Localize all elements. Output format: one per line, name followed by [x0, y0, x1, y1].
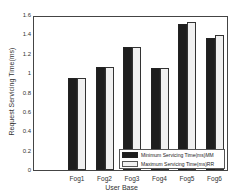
legend-swatch-min — [122, 152, 138, 158]
legend-swatch-max — [122, 161, 138, 167]
y-tick-label: 0.8 — [17, 90, 31, 96]
x-tick-label: Fog1 — [67, 175, 87, 182]
plot-area — [33, 16, 228, 171]
bar-fog2-max — [105, 67, 114, 170]
legend-item-min: Minimum Servicing Time(ms)MM — [120, 151, 224, 159]
bar-fog1-max — [77, 78, 86, 170]
bar-fog5-max — [187, 22, 196, 170]
x-tick-label: Fog6 — [205, 175, 225, 182]
legend-item-max: Maximum Servicing Time(ms)RR — [120, 160, 224, 168]
legend-label-max: Maximum Servicing Time(ms)RR — [141, 161, 214, 167]
y-axis-label: Request Servicing Time(ms) — [8, 37, 15, 147]
y-tick-label: 0.2 — [17, 148, 31, 154]
y-tick-label: 0.6 — [17, 109, 31, 115]
y-tick-label: 0.4 — [17, 128, 31, 134]
bar-fog1-min — [68, 78, 77, 170]
legend: Minimum Servicing Time(ms)MM Maximum Ser… — [119, 149, 225, 169]
y-tick-label: 1 — [17, 70, 31, 76]
x-tick-label: Fog3 — [122, 175, 142, 182]
bar-fog2-min — [96, 67, 105, 170]
y-tick-label: 1.2 — [17, 51, 31, 57]
y-tick-label: 1.4 — [17, 31, 31, 37]
x-tick-label: Fog5 — [177, 175, 197, 182]
legend-label-min: Minimum Servicing Time(ms)MM — [141, 152, 214, 158]
y-tick-label: 0 — [17, 167, 31, 173]
x-tick-label: Fog2 — [95, 175, 115, 182]
x-tick-label: Fog4 — [150, 175, 170, 182]
y-tick-label: 1.6 — [17, 12, 31, 18]
x-axis-label: User Base — [0, 184, 243, 191]
